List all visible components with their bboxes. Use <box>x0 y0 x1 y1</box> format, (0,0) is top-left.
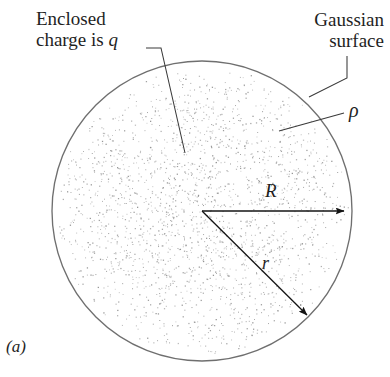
charge-density-label-rho: ρ <box>349 99 359 121</box>
gaussian-surface-label: Gaussiansurface <box>314 9 384 52</box>
enclosed-charge-line2: charge is <box>36 29 108 50</box>
figure-panel-a: Enclosedcharge is q Gaussiansurface ρ R … <box>0 0 390 377</box>
enclosed-charge-line1: Enclosed <box>36 8 106 29</box>
panel-label: (a) <box>6 337 26 356</box>
enclosed-charge-label: Enclosedcharge is q <box>36 8 118 51</box>
enclosed-charge-leader-line <box>146 48 185 153</box>
gaussian-sphere-diagram <box>0 0 390 377</box>
gaussian-surface-line1: Gaussian <box>314 9 384 30</box>
rho-leader-line <box>279 113 344 131</box>
gaussian-surface-line2: surface <box>329 30 384 51</box>
distance-label-r: r <box>262 253 269 273</box>
gaussian-surface-leader-line <box>309 56 347 97</box>
radius-label-R: R <box>265 180 277 201</box>
radius-r-arrow <box>202 211 307 315</box>
charge-symbol-q: q <box>108 29 118 50</box>
